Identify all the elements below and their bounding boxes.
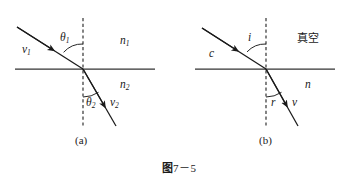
panel-tag-b: (b) — [259, 135, 272, 146]
label-medium-lower-a: n2 — [120, 79, 130, 92]
label-incident-ray-b: c — [209, 48, 214, 61]
label-refracted-angle-a: θ2 — [86, 97, 95, 110]
caption-cjk-char: 图 — [162, 162, 173, 175]
label-incident-angle-b: i — [248, 32, 251, 45]
figure-caption: 图7－5 — [0, 159, 358, 175]
panel-a-graphics — [15, 18, 155, 128]
incident-ray-arrow-b — [202, 28, 236, 50]
label-medium-upper-a: n1 — [120, 35, 130, 48]
label-refracted-ray-b: v — [292, 97, 297, 110]
caption-number: 7－5 — [173, 162, 196, 174]
label-refracted-ray-a: v2 — [110, 97, 119, 110]
label-incident-ray-a: v1 — [22, 44, 31, 57]
refracted-ray-arrow-b — [266, 69, 286, 105]
panel-tag-a: (a) — [75, 135, 87, 146]
label-medium-lower-b: n — [305, 79, 311, 92]
label-incident-angle-a: θ1 — [60, 32, 69, 45]
figure-container: v1 θ1 n1 n2 θ2 v2 (a) c i 真空 n r v (b) 图… — [0, 0, 358, 180]
label-refracted-angle-b: r — [271, 97, 275, 110]
incident-angle-arc-b — [247, 44, 266, 52]
incident-angle-arc-a — [64, 44, 83, 52]
label-medium-upper-b: 真空 — [297, 33, 319, 44]
